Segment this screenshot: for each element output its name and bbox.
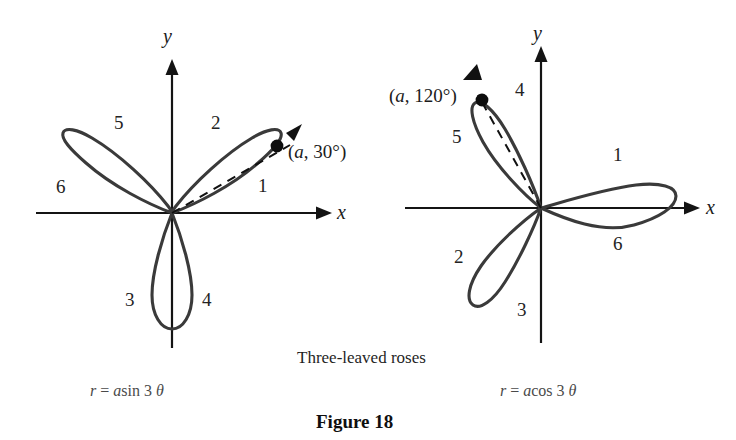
- left-eq-theta: θ: [156, 382, 164, 399]
- right-terminal-ray: [463, 64, 541, 208]
- left-region-label-4: 4: [202, 290, 212, 309]
- right-region-label-1: 1: [613, 145, 623, 164]
- left-ray-arrowhead: [286, 124, 302, 141]
- right-eq-theta: θ: [569, 382, 577, 399]
- right-ray-arrowhead: [463, 64, 482, 80]
- right-y-axis-label: y: [533, 23, 542, 43]
- right-y-axis-arrowhead: [535, 46, 548, 62]
- right-eq-equals: =: [510, 382, 519, 399]
- left-marked-point-label: (a, 30°): [288, 142, 346, 161]
- right-point-angle: , 120°): [405, 85, 457, 106]
- left-region-label-1: 1: [258, 176, 268, 195]
- left-rose-petal-left: [63, 130, 172, 213]
- right-region-label-6: 6: [613, 234, 623, 253]
- left-eq-equals: =: [100, 382, 109, 399]
- left-marked-point-dot: [271, 140, 284, 153]
- left-ray-dashed-line: [172, 145, 290, 213]
- right-equation-caption: r = acos 3 θ: [500, 383, 576, 399]
- right-marked-point-dot: [476, 94, 489, 107]
- left-y-axis-arrowhead: [166, 59, 179, 75]
- right-eq-r: r: [500, 382, 506, 399]
- right-region-label-4: 4: [515, 80, 525, 99]
- left-eq-r: r: [90, 382, 96, 399]
- right-region-label-5: 5: [452, 127, 462, 146]
- left-region-label-5: 5: [114, 113, 124, 132]
- right-rose-petal-upper-left: [472, 102, 541, 208]
- left-region-label-6: 6: [56, 177, 66, 196]
- figure-title: Figure 18: [316, 412, 393, 431]
- left-eq-function: sin 3: [121, 382, 152, 399]
- left-point-angle: , 30°): [304, 141, 346, 162]
- left-point-amplitude: a: [294, 141, 304, 162]
- right-x-axis-arrowhead: [684, 202, 700, 215]
- right-marked-point-label: (a, 120°): [389, 86, 457, 105]
- right-region-label-2: 2: [454, 247, 464, 266]
- right-region-label-3: 3: [517, 300, 527, 319]
- left-equation-caption: r = asin 3 θ: [90, 383, 164, 399]
- right-rose-petal-right: [541, 184, 676, 228]
- left-x-axis-label: x: [337, 202, 346, 222]
- left-rose-petal-right: [172, 130, 281, 213]
- figure-center-caption: Three-leaved roses: [297, 349, 426, 366]
- left-x-axis-arrowhead: [316, 207, 332, 220]
- right-eq-function: cos 3: [531, 382, 564, 399]
- left-y-axis-label: y: [163, 26, 172, 46]
- left-terminal-ray: [172, 124, 302, 213]
- left-plot-group: [36, 59, 332, 348]
- left-region-label-2: 2: [211, 113, 221, 132]
- right-x-axis-label: x: [706, 197, 715, 217]
- left-region-label-3: 3: [125, 290, 135, 309]
- right-rose-petal-lower-left: [469, 208, 541, 306]
- right-point-amplitude: a: [395, 85, 405, 106]
- rose-curves-svg: [0, 0, 736, 440]
- figure-18-container: y x 1 2 3 4 5 6 (a, 30°) r = asin 3 θ y …: [0, 0, 736, 440]
